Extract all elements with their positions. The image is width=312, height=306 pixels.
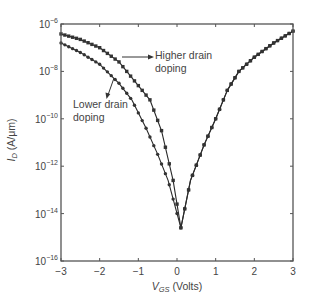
data-point-square [98, 46, 101, 49]
data-point-circle [144, 127, 147, 130]
data-point-square [94, 44, 97, 47]
data-point-circle [63, 43, 66, 46]
annotation-lower-line1: Lower drain [73, 98, 128, 110]
data-point-square [156, 119, 159, 122]
data-point-square [63, 33, 66, 36]
data-point-circle [229, 82, 232, 85]
data-point-circle [160, 162, 163, 165]
arrow-line-lower [108, 78, 114, 95]
annotation-lower-line2: doping [73, 111, 105, 123]
data-point-square [171, 179, 174, 182]
data-point-square [117, 60, 120, 63]
chart: −3−2−10123 10−610−810−1010−1210−1410−16 … [0, 0, 312, 306]
data-point-circle [214, 117, 217, 120]
data-point-square [75, 37, 78, 40]
data-point-circle [249, 59, 252, 62]
data-point-square [141, 89, 144, 92]
data-point-circle [195, 163, 198, 166]
data-point-circle [284, 34, 287, 37]
data-point-circle [152, 144, 155, 147]
data-point-circle [86, 55, 89, 58]
x-tick-label: −2 [94, 266, 106, 277]
y-tick-label: 10−10 [35, 112, 58, 125]
data-point-circle [183, 207, 186, 210]
data-point-square [79, 38, 82, 41]
data-point-circle [260, 50, 263, 53]
x-tick-label: 2 [252, 266, 258, 277]
data-point-circle [117, 82, 120, 85]
data-point-circle [129, 97, 132, 100]
data-point-circle [106, 70, 109, 73]
y-tick-label: 10−12 [35, 159, 58, 172]
data-point-square [83, 39, 86, 42]
data-point-circle [175, 212, 178, 215]
data-point-circle [268, 44, 271, 47]
arrowhead-higher-icon [148, 55, 154, 60]
data-point-circle [156, 153, 159, 156]
data-point-square [102, 49, 105, 52]
data-point-square [71, 36, 74, 39]
data-point-circle [141, 119, 144, 122]
annotation-higher-drain-doping: Higher drain doping [122, 49, 212, 74]
data-point-square [110, 55, 113, 58]
data-point-circle [133, 104, 136, 107]
data-point-square [137, 84, 140, 87]
x-tick-label: 3 [290, 266, 296, 277]
data-point-circle [233, 76, 236, 79]
data-point-circle [125, 92, 128, 95]
data-point-square [164, 146, 167, 149]
y-axis-title: ID (A/μm) [5, 119, 19, 162]
data-point-circle [102, 66, 105, 69]
data-point-circle [83, 53, 86, 56]
data-point-circle [222, 98, 225, 101]
data-point-circle [98, 63, 101, 66]
x-tick-label: −1 [133, 266, 145, 277]
data-point-circle [94, 60, 97, 63]
x-tick-label: −3 [55, 266, 67, 277]
data-point-square [133, 79, 136, 82]
data-point-circle [110, 74, 113, 77]
data-point-square [129, 74, 132, 77]
data-point-circle [237, 70, 240, 73]
data-point-circle [206, 134, 209, 137]
data-point-circle [90, 58, 93, 61]
data-point-circle [75, 49, 78, 52]
data-point-circle [79, 51, 82, 54]
data-point-square [121, 65, 124, 68]
data-point-circle [171, 197, 174, 200]
data-point-square [113, 57, 116, 60]
data-point-circle [276, 39, 279, 42]
data-point-square [86, 41, 89, 44]
data-point-circle [245, 63, 248, 66]
data-point-circle [121, 87, 124, 90]
data-point-square [175, 202, 178, 205]
data-point-circle [241, 66, 244, 69]
x-tick-label: 0 [174, 266, 180, 277]
data-point-circle [202, 143, 205, 146]
data-point-square [106, 52, 109, 55]
annotation-higher-line1: Higher drain [155, 49, 212, 61]
y-tick-label: 10−14 [35, 207, 58, 220]
data-point-circle [164, 172, 167, 175]
data-point-circle [137, 111, 140, 114]
data-point-circle [287, 32, 290, 35]
data-point-circle [67, 45, 70, 48]
data-point-circle [264, 47, 267, 50]
data-point-square [152, 108, 155, 111]
y-tick-label: 10−6 [39, 17, 58, 30]
data-point-square [148, 98, 151, 101]
data-point-square [90, 43, 93, 46]
data-point-circle [226, 89, 229, 92]
data-point-circle [148, 135, 151, 138]
data-point-circle [71, 47, 74, 50]
data-point-circle [179, 226, 182, 229]
data-point-square [125, 70, 128, 73]
x-axis-title: VGS (Volts) [152, 280, 203, 294]
data-point-square [168, 162, 171, 165]
data-point-circle [191, 174, 194, 177]
data-point-circle [168, 183, 171, 186]
x-tick-label: 1 [213, 266, 219, 277]
data-point-circle [210, 126, 213, 129]
data-point-circle [280, 37, 283, 40]
data-point-circle [218, 108, 221, 111]
